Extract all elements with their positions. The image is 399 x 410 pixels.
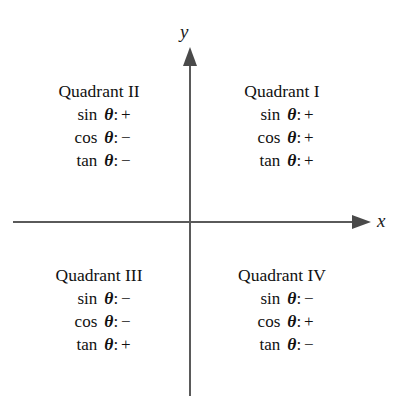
quadrant-ii-sin-row: sinθ:+: [67, 103, 130, 126]
theta-symbol: θ: [97, 127, 113, 147]
theta-symbol: θ: [280, 311, 296, 331]
cos-sign-value: −: [121, 312, 131, 331]
sin-label: sin: [250, 288, 280, 310]
quadrant-ii-title: Quadrant II: [13, 80, 185, 102]
quadrant-ii-cos-row: cosθ:−: [67, 126, 130, 149]
y-axis-line: [189, 60, 191, 396]
theta-symbol: θ: [97, 334, 113, 354]
quadrant-i-sin-row: sinθ:+: [250, 103, 313, 126]
quadrant-iii-title: Quadrant III: [13, 264, 185, 286]
quadrant-iv-cos-row: cosθ:+: [250, 310, 313, 333]
quadrant-iv-sign-list: sinθ:− cosθ:+ tanθ:−: [250, 287, 313, 356]
quadrant-iii-tan-row: tanθ:+: [67, 333, 130, 356]
colon-separator: :: [296, 128, 304, 147]
sin-label: sin: [67, 104, 97, 126]
theta-symbol: θ: [97, 150, 113, 170]
quadrant-ii-block: Quadrant II sinθ:+ cosθ:− tanθ:−: [13, 80, 185, 172]
colon-separator: :: [113, 105, 121, 124]
quadrant-i-cos-row: cosθ:+: [250, 126, 313, 149]
theta-symbol: θ: [97, 311, 113, 331]
sin-label: sin: [250, 104, 280, 126]
quadrant-iv-title: Quadrant IV: [196, 264, 368, 286]
cos-label: cos: [250, 127, 280, 149]
quadrant-i-block: Quadrant I sinθ:+ cosθ:+ tanθ:+: [196, 80, 368, 172]
cos-sign-value: −: [121, 128, 131, 147]
x-axis-line: [13, 221, 363, 223]
tan-label: tan: [250, 334, 280, 356]
theta-symbol: θ: [97, 104, 113, 124]
cos-sign-value: +: [304, 128, 314, 147]
quadrant-i-title: Quadrant I: [196, 80, 368, 102]
quadrant-iii-sin-row: sinθ:−: [67, 287, 130, 310]
cos-label: cos: [67, 127, 97, 149]
quadrant-iv-sin-row: sinθ:−: [250, 287, 313, 310]
quadrant-iii-block: Quadrant III sinθ:− cosθ:− tanθ:+: [13, 264, 185, 356]
colon-separator: :: [296, 151, 304, 170]
colon-separator: :: [296, 312, 304, 331]
colon-separator: :: [113, 128, 121, 147]
theta-symbol: θ: [280, 104, 296, 124]
cos-sign-value: +: [304, 312, 314, 331]
sin-sign-value: +: [304, 105, 314, 124]
quadrant-iii-cos-row: cosθ:−: [67, 310, 130, 333]
quadrant-i-sign-list: sinθ:+ cosθ:+ tanθ:+: [250, 103, 313, 172]
tan-sign-value: +: [121, 335, 131, 354]
colon-separator: :: [296, 105, 304, 124]
quadrant-iv-tan-row: tanθ:−: [250, 333, 313, 356]
theta-symbol: θ: [280, 288, 296, 308]
cos-label: cos: [67, 311, 97, 333]
tan-sign-value: −: [304, 335, 314, 354]
theta-symbol: θ: [280, 150, 296, 170]
colon-separator: :: [113, 335, 121, 354]
tan-label: tan: [250, 150, 280, 172]
colon-separator: :: [113, 151, 121, 170]
tan-sign-value: +: [304, 151, 314, 170]
theta-symbol: θ: [280, 127, 296, 147]
y-axis-label: y: [180, 22, 188, 41]
colon-separator: :: [296, 335, 304, 354]
sin-label: sin: [67, 288, 97, 310]
y-axis-arrow-icon: [183, 47, 197, 66]
sin-sign-value: −: [304, 289, 314, 308]
x-axis-arrow-icon: [352, 215, 371, 229]
tan-label: tan: [67, 150, 97, 172]
theta-symbol: θ: [97, 288, 113, 308]
colon-separator: :: [113, 312, 121, 331]
quadrant-iii-sign-list: sinθ:− cosθ:− tanθ:+: [67, 287, 130, 356]
sin-sign-value: −: [121, 289, 131, 308]
quadrant-i-tan-row: tanθ:+: [250, 149, 313, 172]
tan-label: tan: [67, 334, 97, 356]
colon-separator: :: [113, 289, 121, 308]
quadrant-iv-block: Quadrant IV sinθ:− cosθ:+ tanθ:−: [196, 264, 368, 356]
quadrant-ii-sign-list: sinθ:+ cosθ:− tanθ:−: [67, 103, 130, 172]
cos-label: cos: [250, 311, 280, 333]
colon-separator: :: [296, 289, 304, 308]
tan-sign-value: −: [121, 151, 131, 170]
quadrant-ii-tan-row: tanθ:−: [67, 149, 130, 172]
theta-symbol: θ: [280, 334, 296, 354]
sin-sign-value: +: [121, 105, 131, 124]
x-axis-label: x: [377, 211, 385, 230]
quadrant-sign-diagram: y x Quadrant II sinθ:+ cosθ:− tanθ:− Qua…: [0, 0, 399, 410]
